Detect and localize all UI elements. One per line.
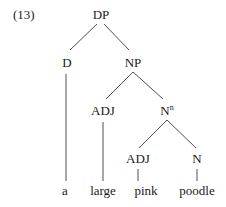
edge-nbar-adj: [139, 120, 167, 148]
node-dp: DP: [93, 8, 110, 22]
node-n-bar: Nn: [160, 104, 173, 118]
edge-dp-np: [104, 24, 129, 50]
edge-dp-d: [70, 24, 97, 50]
leaf-pink: pink: [134, 184, 157, 198]
node-np: NP: [125, 56, 142, 70]
edge-np-nbar: [133, 72, 163, 99]
node-adj-pink: ADJ: [126, 152, 150, 166]
node-n: N: [192, 152, 201, 166]
node-adj-large: ADJ: [91, 104, 115, 118]
edge-nbar-n: [167, 120, 196, 148]
edge-np-adj: [106, 72, 133, 99]
leaf-large: large: [90, 184, 116, 198]
example-number: (13): [13, 8, 35, 22]
node-d: D: [62, 56, 71, 70]
node-n-bar-label: N: [160, 103, 169, 118]
node-n-bar-superscript: n: [170, 103, 174, 112]
leaf-a: a: [62, 184, 68, 198]
leaf-poodle: poodle: [179, 184, 214, 198]
